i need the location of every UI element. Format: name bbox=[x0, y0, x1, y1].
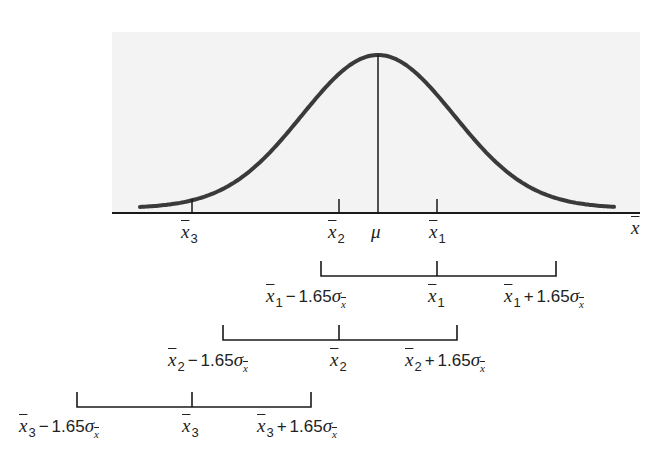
tick-label-x1: x1 bbox=[429, 222, 446, 244]
interval-bracket-2 bbox=[223, 325, 457, 340]
interval-1-center-label: x1 bbox=[428, 286, 445, 308]
interval-bracket-3 bbox=[77, 392, 311, 407]
tick-label-mu: μ bbox=[371, 222, 381, 243]
sampling-distribution-figure: x3 x2 μ x1 x x1−1.65σx x1 x1+1.65σx x2−1… bbox=[0, 0, 653, 473]
tick-label-x3: x3 bbox=[181, 222, 198, 244]
interval-3-center-label: x3 bbox=[182, 416, 199, 438]
interval-2-upper-label: x2+1.65σx bbox=[405, 350, 485, 372]
interval-2-center-label: x2 bbox=[330, 350, 347, 372]
background-panel bbox=[112, 32, 640, 213]
interval-1-lower-label: x1−1.65σx bbox=[266, 286, 346, 308]
interval-2-lower-label: x2−1.65σx bbox=[168, 350, 248, 372]
interval-bracket-1 bbox=[321, 261, 556, 276]
axis-label: x bbox=[631, 218, 639, 239]
interval-3-upper-label: x3+1.65σx bbox=[257, 416, 337, 438]
tick-label-x2: x2 bbox=[328, 222, 345, 244]
interval-3-lower-label: x3−1.65σx bbox=[19, 416, 99, 438]
diagram-graphics bbox=[0, 0, 653, 473]
interval-1-upper-label: x1+1.65σx bbox=[504, 286, 584, 308]
